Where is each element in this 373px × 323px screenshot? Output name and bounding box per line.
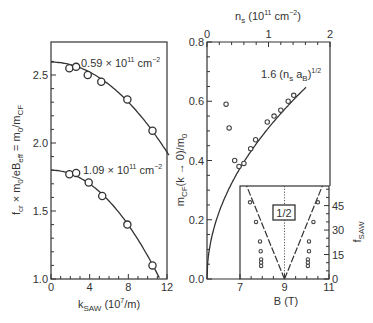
inset-data-point — [307, 250, 310, 253]
data-point-series-1 — [99, 192, 106, 199]
data-point — [292, 93, 296, 97]
right-data-points — [224, 93, 296, 169]
inset-data-point — [259, 264, 262, 267]
data-point-series-0 — [73, 63, 80, 70]
data-point-series-1 — [73, 169, 80, 176]
fit-curve-series-1 — [51, 170, 159, 278]
inset-data-point — [316, 201, 319, 204]
inset-y-tick-labels: 0153045 — [332, 200, 344, 285]
figure: 04812 1.01.52.02.5 0.59 × 1011 cm−2 1.09… — [0, 0, 373, 323]
data-point-series-0 — [84, 71, 91, 78]
data-point-series-1 — [66, 171, 73, 178]
data-point — [232, 158, 236, 162]
series-label-0: 0.59 × 1011 cm−2 — [81, 56, 160, 69]
inset-x-tick-labels: 7911 — [237, 281, 335, 293]
inset-data-point — [248, 201, 251, 204]
data-point-series-1 — [124, 221, 131, 228]
right-top-x-tick-label: 2 — [327, 28, 333, 40]
left-y-tick-label: 1.5 — [33, 205, 48, 217]
inset-x-tick-label: 7 — [237, 281, 243, 293]
fit-label: 1.6 (ns aB)1/2 — [261, 67, 321, 83]
left-x-axis-label: kSAW (107/m) — [78, 297, 140, 313]
right-top-x-tick-label: 0 — [204, 28, 210, 40]
inset-y-axis-label: fSAW — [351, 221, 366, 242]
left-y-axis-label: fcr × m0/eBeff = m0/mCF — [10, 105, 25, 215]
inset-data-point — [254, 220, 257, 223]
data-point — [272, 114, 276, 118]
left-y-tick-label: 2.0 — [33, 137, 48, 149]
inset-panel: 1/2 7911 0153045 B (T) fSAW — [237, 186, 366, 307]
data-point-series-0 — [149, 127, 156, 134]
left-y-tick-label: 2.5 — [33, 69, 48, 81]
right-y-tick-label: 0.6 — [189, 95, 204, 107]
data-point — [227, 126, 231, 130]
data-point-series-0 — [66, 65, 73, 72]
right-top-x-axis-label: ns (1011 cm−2) — [235, 9, 301, 25]
right-y-tick-label: 0.4 — [189, 155, 204, 167]
right-top-x-tick-label: 1 — [265, 28, 271, 40]
left-x-tick-label: 8 — [125, 281, 131, 293]
left-x-tick-label: 4 — [87, 281, 93, 293]
right-y-tick-label: 0.8 — [189, 36, 204, 48]
annotation-half: 1/2 — [276, 207, 291, 219]
inset-x-axis-label: B (T) — [274, 295, 298, 307]
data-point-series-0 — [98, 78, 105, 85]
data-point-series-1 — [149, 262, 156, 269]
data-point-series-0 — [124, 96, 131, 103]
inset-data-point — [258, 240, 261, 243]
data-point — [265, 120, 269, 124]
inset-y-tick-label: 30 — [332, 224, 344, 236]
inset-x-tick-label: 9 — [281, 281, 287, 293]
inset-y-tick-label: 0 — [332, 273, 338, 285]
inset-data-point — [307, 240, 310, 243]
inset-data-point — [312, 220, 315, 223]
left-y-tick-labels: 1.01.52.02.5 — [33, 69, 48, 285]
right-y-axis-label: mCF(k → 0)/m0 — [174, 133, 189, 206]
data-point — [248, 146, 252, 150]
right-y-tick-label: 0.2 — [189, 214, 204, 226]
data-point — [279, 108, 283, 112]
inset-y-tick-label: 45 — [332, 200, 344, 212]
right-top-x-tick-labels: 012 — [204, 28, 333, 40]
data-point — [237, 164, 241, 168]
fit-curve-series-0 — [51, 62, 169, 155]
left-x-tick-labels: 04812 — [48, 281, 173, 293]
left-plot-frame — [51, 42, 167, 279]
data-point — [224, 102, 228, 106]
data-point — [253, 138, 257, 142]
data-point — [286, 99, 290, 103]
series-label-1: 1.09 × 1011 cm−2 — [83, 163, 162, 176]
data-point-series-1 — [85, 179, 92, 186]
right-y-tick-labels: 0.00.20.40.60.8 — [189, 36, 204, 285]
left-x-tick-label: 12 — [161, 281, 173, 293]
left-x-tick-label: 0 — [48, 281, 54, 293]
inset-y-tick-label: 15 — [332, 249, 344, 261]
left-panel: 04812 1.01.52.02.5 0.59 × 1011 cm−2 1.09… — [10, 42, 173, 313]
inset-data-point — [306, 264, 309, 267]
left-y-tick-label: 1.0 — [33, 273, 48, 285]
right-y-tick-label: 0.0 — [189, 273, 204, 285]
inset-data-point — [259, 250, 262, 253]
data-point — [242, 161, 246, 165]
